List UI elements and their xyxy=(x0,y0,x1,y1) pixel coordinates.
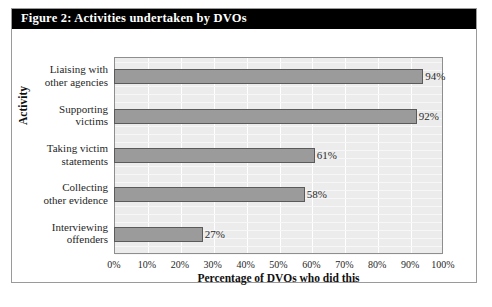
category-label-line: Liaising with xyxy=(12,63,108,76)
category-label: Supportingvictims xyxy=(12,103,108,128)
category-label-line: Interviewing xyxy=(12,221,108,234)
category-label-line: offenders xyxy=(12,233,108,246)
bar-value-label: 27% xyxy=(205,227,225,242)
bar-value-label: 92% xyxy=(419,109,439,124)
category-label-line: victims xyxy=(12,115,108,128)
figure-title: Figure 2: Activities undertaken by DVOs xyxy=(21,11,247,26)
bar-value-label: 58% xyxy=(307,187,327,202)
gridline-horizontal xyxy=(115,142,442,143)
gridline-horizontal xyxy=(115,134,442,135)
category-label-line: statements xyxy=(12,155,108,168)
figure-title-bar: Figure 2: Activities undertaken by DVOs xyxy=(12,9,476,29)
bar-value-label: 61% xyxy=(317,148,337,163)
x-tick-label: 100% xyxy=(423,259,463,270)
gridline-horizontal xyxy=(115,86,442,87)
bar xyxy=(114,109,417,124)
gridline-vertical xyxy=(378,58,379,253)
gridline-horizontal xyxy=(115,166,442,167)
gridline-vertical xyxy=(411,58,412,253)
gridline-horizontal xyxy=(115,214,442,215)
gridline-horizontal xyxy=(115,62,442,63)
bar-value-label: 94% xyxy=(425,69,445,84)
gridline-horizontal xyxy=(115,126,442,127)
figure-container: Figure 2: Activities undertaken by DVOs … xyxy=(11,8,477,283)
bar xyxy=(114,187,305,202)
gridline-vertical xyxy=(444,58,445,253)
gridline-horizontal xyxy=(115,102,442,103)
category-label-line: Taking victim xyxy=(12,142,108,155)
gridline-horizontal xyxy=(115,246,442,247)
gridline-horizontal xyxy=(115,94,442,95)
category-label: Collectingother evidence xyxy=(12,181,108,206)
gridline-horizontal xyxy=(115,206,442,207)
gridline-horizontal xyxy=(115,182,442,183)
bar xyxy=(114,148,315,163)
category-label-line: Collecting xyxy=(12,181,108,194)
gridline-horizontal xyxy=(115,254,442,255)
bar xyxy=(114,227,203,242)
chart-plot-region: Activity 94%Liaising withother agencies9… xyxy=(12,29,476,283)
gridline-vertical xyxy=(345,58,346,253)
category-label-line: Supporting xyxy=(12,103,108,116)
category-label-line: other agencies xyxy=(12,76,108,89)
category-label: Interviewingoffenders xyxy=(12,221,108,246)
x-axis-title: Percentage of DVOs who did this xyxy=(114,272,443,284)
category-label: Taking victimstatements xyxy=(12,142,108,167)
category-label: Liaising withother agencies xyxy=(12,63,108,88)
gridline-horizontal xyxy=(115,222,442,223)
bar xyxy=(114,69,423,84)
category-label-line: other evidence xyxy=(12,194,108,207)
gridline-horizontal xyxy=(115,174,442,175)
